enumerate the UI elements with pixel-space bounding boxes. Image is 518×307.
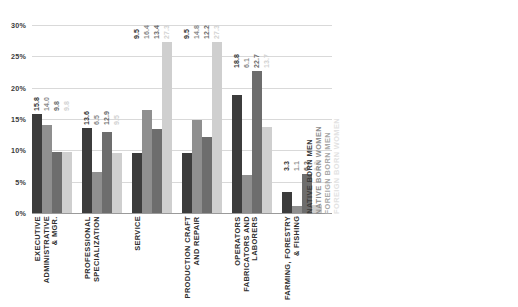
bar-group [32, 25, 82, 213]
bar [292, 206, 302, 213]
bar-chart: 0%5%10%15%20%25%30% 15.814.09.89.813.66.… [0, 0, 518, 307]
bar [212, 42, 222, 213]
bar [112, 153, 122, 213]
bar [162, 42, 172, 213]
y-axis-tick-label: 0% [15, 209, 26, 218]
category-label-cell: SERVICE [132, 216, 182, 307]
bar [192, 120, 202, 213]
bar-group [182, 25, 232, 213]
bar-group [132, 25, 182, 213]
bar [32, 114, 42, 213]
axis-baseline [32, 213, 332, 214]
bar [252, 71, 262, 213]
bar-group [82, 25, 132, 213]
bar [152, 129, 162, 213]
bar [142, 110, 152, 213]
category-label: PROFESSIONAL SPECIALIZATION [84, 216, 101, 282]
y-axis-tick-label: 25% [11, 52, 26, 61]
category-label-cell: OPERATORS FABRICATORS AND LABORERS [232, 216, 282, 307]
category-label-cell: FARMING, FORESTRY & FISHING [282, 216, 332, 307]
y-axis: 0%5%10%15%20%25%30% [0, 25, 30, 213]
legend: NATIVE BORN MENNATIVE BORN WOMENFOREIGN … [305, 118, 341, 214]
bar [92, 172, 102, 213]
bar-group [232, 25, 282, 213]
bar [82, 128, 92, 213]
category-label-cell: PROFESSIONAL SPECIALIZATION [82, 216, 132, 307]
y-axis-tick-label: 15% [11, 115, 26, 124]
legend-item: FOREIGN BORN MEN [323, 132, 332, 214]
bar [42, 125, 52, 213]
y-axis-tick-label: 30% [11, 21, 26, 30]
category-label: PRODUCTION CRAFT AND REPAIR [184, 216, 201, 298]
bar [62, 152, 72, 213]
category-axis-labels: EXECUTIVE ADMINISTRATIVE & MGR.PROFESSIO… [32, 216, 332, 307]
bar [202, 137, 212, 213]
legend-item: FOREIGN BORN WOMEN [332, 118, 341, 214]
category-label-cell: EXECUTIVE ADMINISTRATIVE & MGR. [32, 216, 82, 307]
bar [102, 132, 112, 213]
category-label: FARMING, FORESTRY & FISHING [284, 216, 301, 300]
bar [132, 153, 142, 213]
category-label: OPERATORS FABRICATORS AND LABORERS [234, 216, 260, 292]
category-label: EXECUTIVE ADMINISTRATIVE & MGR. [34, 216, 60, 283]
category-label-cell: PRODUCTION CRAFT AND REPAIR [182, 216, 232, 307]
bar [232, 95, 242, 213]
bar-groups [32, 25, 332, 213]
legend-item: NATIVE BORN MEN [305, 139, 314, 214]
bar [52, 152, 62, 213]
bar [242, 175, 252, 213]
bar [262, 127, 272, 213]
y-axis-tick-label: 10% [11, 146, 26, 155]
bar [282, 192, 292, 213]
category-label: SERVICE [134, 216, 143, 251]
y-axis-tick-label: 20% [11, 83, 26, 92]
bar [182, 153, 192, 213]
legend-item: NATIVE BORN WOMEN [314, 126, 323, 214]
y-axis-tick-label: 5% [15, 177, 26, 186]
plot-area: 15.814.09.89.813.66.512.99.59.516.413.42… [32, 25, 332, 213]
